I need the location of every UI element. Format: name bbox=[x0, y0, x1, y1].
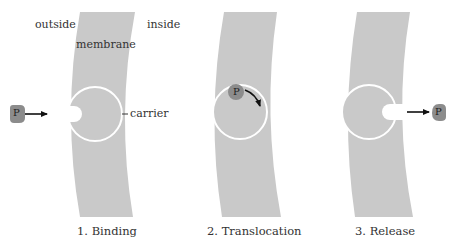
caption-step-1: 1. Binding bbox=[77, 226, 137, 238]
label-outside: outside bbox=[35, 19, 76, 30]
label-inside: inside bbox=[147, 19, 180, 30]
molecule-label: P bbox=[233, 87, 240, 97]
panel-translocation bbox=[213, 12, 281, 217]
panel-release bbox=[342, 12, 446, 217]
label-membrane: membrane bbox=[76, 39, 136, 50]
carrier-transport-diagram: outside inside membrane carrier P P P 1.… bbox=[0, 0, 455, 246]
binding-site-notch bbox=[382, 104, 404, 120]
binding-site-notch bbox=[60, 106, 82, 122]
molecule-label: P bbox=[13, 108, 20, 118]
caption-step-2: 2. Translocation bbox=[207, 226, 302, 238]
diagram-graphics bbox=[0, 0, 455, 246]
label-carrier: carrier bbox=[130, 108, 169, 119]
caption-step-3: 3. Release bbox=[355, 226, 415, 238]
molecule-label: P bbox=[435, 107, 442, 117]
